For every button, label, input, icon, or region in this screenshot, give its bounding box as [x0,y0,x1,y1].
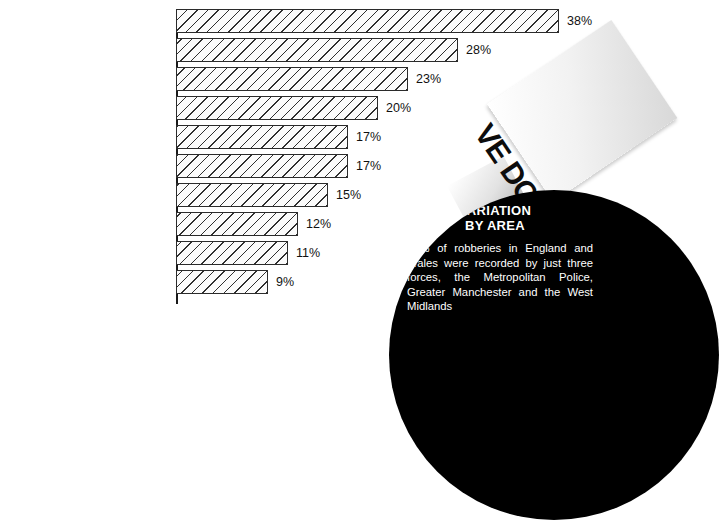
bar [176,125,348,149]
bar [176,270,268,294]
value-label: 28% [466,38,491,62]
callout-heading-line1: VARIATION [411,203,579,218]
bar [176,38,458,62]
value-label: 23% [416,67,441,91]
variation-by-area-callout: VARIATION BY AREA 59% of robberies in En… [389,190,719,520]
callout-body-text: 59% of robberies in England and Wales we… [407,241,593,314]
callout-heading: VARIATION BY AREA [411,203,579,233]
value-label: 11% [296,241,320,265]
value-label: 17% [356,154,381,178]
value-label: 20% [386,96,411,120]
bar [176,241,288,265]
value-label: 17% [356,125,381,149]
bar [176,212,298,236]
bar [176,96,378,120]
bar [176,183,328,207]
bar [176,9,559,33]
value-label: 9% [276,270,294,294]
bar [176,154,348,178]
value-label: 38% [567,9,592,33]
value-label: 15% [336,183,361,207]
value-label: 12% [306,212,331,236]
callout-content: VARIATION BY AREA 59% of robberies in En… [389,190,611,314]
callout-heading-line2: BY AREA [411,218,579,233]
bar [176,67,408,91]
